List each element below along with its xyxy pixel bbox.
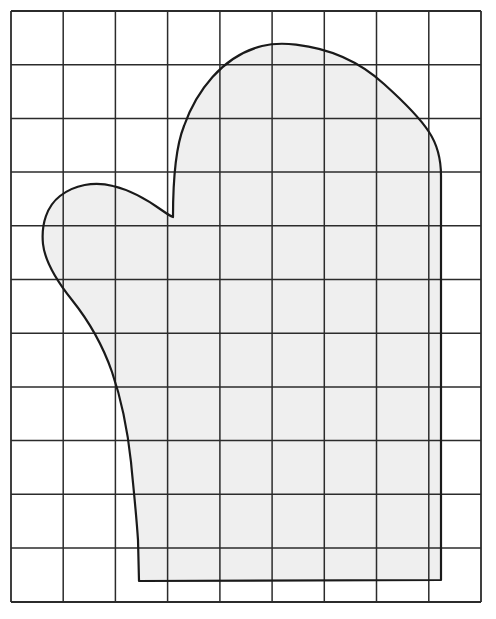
mitten-pattern-figure xyxy=(0,0,496,619)
drawing-canvas xyxy=(0,0,496,619)
mitten-icon xyxy=(43,44,441,581)
mitten-shape-group xyxy=(43,44,441,581)
